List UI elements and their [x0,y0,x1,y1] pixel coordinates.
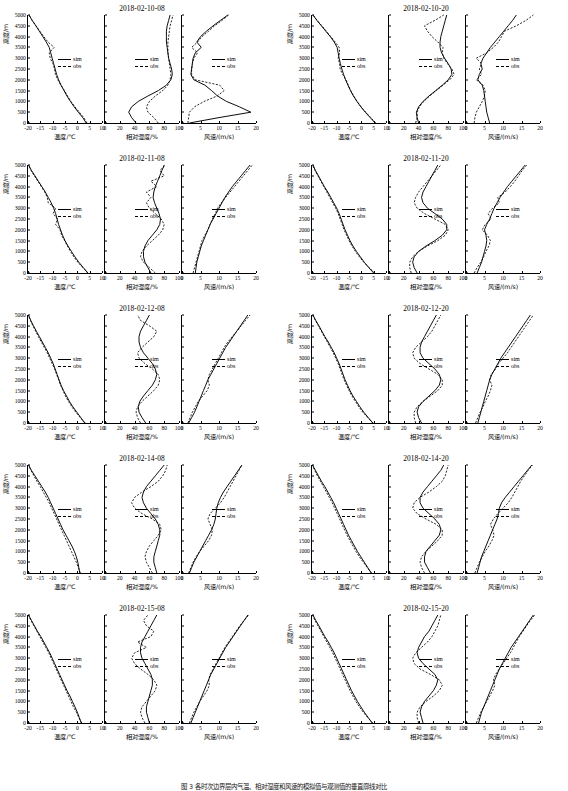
x-tick-label: 5 [199,425,202,431]
x-tick-label: 20 [117,125,123,131]
x-tick-label: 20 [537,125,543,131]
plot-area-humidity: 020406080100相对湿度/%simobs [388,465,463,574]
legend-row-sim: sim [212,206,236,213]
x-tick-label: 10 [216,575,222,581]
y-tick-label: 4500 [15,623,28,629]
x-tick-label: -20 [24,275,31,281]
x-tick-label: 0 [181,575,184,581]
x-tick-label: 10 [500,425,506,431]
legend-swatch-obs [135,66,148,67]
y-tick-label: 2500 [299,366,312,372]
subplot-temperature: 0500100015002000250030003500400045005000… [311,315,385,423]
y-axis-label: 高度/m [1,474,10,494]
legend-label-sim: sim [434,356,443,363]
plot-area-wind: 05101520风速/(m/s)simobs [465,315,540,424]
x-axis-label-temperature: 温度/℃ [338,432,359,441]
x-tick-label: 15 [235,575,241,581]
legend-swatch-sim [342,59,355,60]
plot-area-wind: 05101520风速/(m/s)simobs [181,15,256,124]
x-tick-label: 0 [465,275,468,281]
legend-swatch-sim [135,359,148,360]
x-tick-label: -15 [37,425,44,431]
legend-label-obs: obs [511,63,519,70]
x-tick-mark [540,421,541,423]
legend-wind: simobs [496,656,520,670]
plot-area-temperature: 0500100015002000250030003500400045005000… [27,15,102,124]
y-tick-label: 3500 [299,494,312,500]
legend-row-obs: obs [419,213,443,220]
x-tick-label: -15 [321,425,328,431]
x-tick-label: 0 [360,575,363,581]
y-tick-label: 1500 [15,538,28,544]
y-tick-label: 4000 [15,334,28,340]
x-tick-label: 20 [117,275,123,281]
y-tick-label: 1000 [299,548,312,554]
x-tick-label: 80 [445,125,451,131]
legend-row-obs: obs [58,363,82,370]
legend-label-obs: obs [150,513,158,520]
y-tick-label: 1000 [15,98,28,104]
legend-label-sim: sim [511,206,520,213]
y-tick-label: 2500 [299,216,312,222]
y-tick-label: 3500 [15,194,28,200]
legend-swatch-obs [212,666,225,667]
x-tick-label: 0 [76,725,79,731]
y-tick-label: 4000 [15,34,28,40]
legend-swatch-sim [212,359,225,360]
legend-temperature: simobs [342,56,366,70]
x-tick-mark [463,721,464,723]
subplot-wind: 05101520风速/(m/s)simobs [181,15,255,123]
legend-row-sim: sim [342,506,366,513]
plot-area-humidity: 020406080100相对湿度/%simobs [388,615,463,724]
x-tick-label: 0 [465,425,468,431]
legend-label-sim: sim [511,356,520,363]
legend-wind: simobs [496,506,520,520]
y-axis-label: 高度/m [1,24,10,44]
x-tick-label: 20 [537,275,543,281]
x-tick-mark [102,121,103,123]
x-tick-label: -20 [24,425,31,431]
y-tick-label: 1000 [299,98,312,104]
legend-swatch-sim [135,509,148,510]
legend-swatch-sim [419,659,432,660]
x-tick-label: 15 [235,125,241,131]
x-tick-label: 20 [253,275,259,281]
x-tick-label: 5 [199,575,202,581]
legend-swatch-sim [212,209,225,210]
plot-area-wind: 05101520风速/(m/s)simobs [465,15,540,124]
x-tick-label: 0 [181,725,184,731]
x-tick-label: 5 [88,575,91,581]
x-axis-label-temperature: 温度/℃ [54,282,75,291]
legend-label-sim: sim [227,656,236,663]
legend-row-sim: sim [58,206,82,213]
y-tick-label: 4500 [15,323,28,329]
legend-label-sim: sim [73,206,82,213]
legend-wind: simobs [212,506,236,520]
x-tick-mark [102,571,103,573]
y-tick-label: 3500 [299,644,312,650]
x-tick-label: -10 [49,575,56,581]
legend-swatch-sim [58,509,71,510]
x-axis-label-humidity: 相对湿度/% [126,582,158,591]
legend-label-obs: obs [73,63,81,70]
plot-area-humidity: 020406080100相对湿度/%simobs [104,465,179,574]
legend-swatch-sim [419,509,432,510]
x-tick-mark [256,721,257,723]
legend-humidity: simobs [419,56,443,70]
y-tick-label: 3000 [15,355,28,361]
legend-label-obs: obs [511,513,519,520]
x-tick-label: 0 [388,425,391,431]
x-tick-mark [102,421,103,423]
y-tick-label: 500 [301,709,312,715]
legend-temperature: simobs [58,506,82,520]
legend-label-sim: sim [73,506,82,513]
legend-row-sim: sim [342,56,366,63]
y-tick-label: 4000 [299,334,312,340]
legend-humidity: simobs [135,56,159,70]
y-axis-label: 高度/m [1,624,10,644]
panel-title: 2018-02-15-20 [284,604,568,613]
legend-label-obs: obs [73,213,81,220]
x-tick-label: 60 [431,725,437,731]
y-tick-label: 3000 [299,55,312,61]
legend-label-obs: obs [434,513,442,520]
